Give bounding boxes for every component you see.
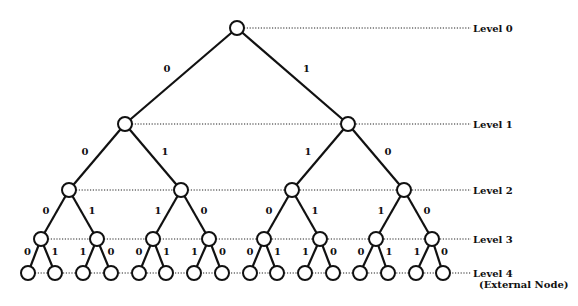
internal-node bbox=[202, 232, 216, 246]
edge-label: 0 bbox=[24, 246, 31, 257]
external-node bbox=[243, 266, 257, 280]
edge-labels: 010110011001100110011001100110 bbox=[24, 63, 448, 257]
edge-label: 0 bbox=[164, 63, 171, 74]
edge-label: 0 bbox=[424, 205, 431, 216]
internal-node bbox=[174, 183, 188, 197]
internal-node bbox=[341, 117, 355, 131]
edge-label: 1 bbox=[414, 246, 421, 257]
external-node bbox=[409, 266, 423, 280]
external-node bbox=[48, 266, 62, 280]
internal-node bbox=[369, 232, 383, 246]
edge-label: 1 bbox=[302, 246, 309, 257]
external-node bbox=[159, 266, 173, 280]
external-node bbox=[76, 266, 90, 280]
internal-node bbox=[146, 232, 160, 246]
edge-label: 0 bbox=[330, 246, 337, 257]
internal-node bbox=[34, 232, 48, 246]
edge-label: 1 bbox=[378, 205, 385, 216]
edge-label: 1 bbox=[155, 205, 162, 216]
edge-label: 1 bbox=[80, 246, 87, 257]
internal-node bbox=[230, 21, 244, 35]
edge-label: 1 bbox=[163, 246, 170, 257]
edge-label: 0 bbox=[441, 246, 448, 257]
edge-label: 1 bbox=[89, 205, 96, 216]
tree-edge bbox=[292, 124, 348, 190]
level-labels: Level 0Level 1Level 2Level 3Level 4(Exte… bbox=[473, 23, 569, 291]
internal-node bbox=[285, 183, 299, 197]
external-node bbox=[381, 266, 395, 280]
internal-node bbox=[425, 232, 439, 246]
level-2-label: Level 2 bbox=[473, 185, 513, 196]
external-node bbox=[353, 266, 367, 280]
internal-node bbox=[397, 183, 411, 197]
internal-node bbox=[90, 232, 104, 246]
external-node bbox=[104, 266, 118, 280]
edge-label: 0 bbox=[43, 205, 50, 216]
edge-label: 1 bbox=[303, 63, 310, 74]
external-node bbox=[187, 266, 201, 280]
edge-label: 0 bbox=[201, 205, 208, 216]
edge-label: 0 bbox=[108, 246, 115, 257]
edge-label: 1 bbox=[305, 146, 312, 157]
level-1-label: Level 1 bbox=[473, 119, 513, 130]
internal-node bbox=[257, 232, 271, 246]
edge-label: 1 bbox=[191, 246, 198, 257]
edge-label: 1 bbox=[162, 146, 169, 157]
external-node bbox=[270, 266, 284, 280]
external-node bbox=[298, 266, 312, 280]
tree-edge bbox=[125, 28, 237, 124]
tree-edge bbox=[348, 124, 404, 190]
external-node bbox=[21, 266, 35, 280]
edge-label: 1 bbox=[274, 246, 281, 257]
level-4-sublabel: (External Node) bbox=[479, 279, 569, 290]
level-4-label: Level 4 bbox=[473, 268, 513, 279]
external-node bbox=[215, 266, 229, 280]
edge-label: 1 bbox=[386, 246, 393, 257]
external-node bbox=[436, 266, 450, 280]
edge-label: 0 bbox=[136, 246, 143, 257]
internal-node bbox=[62, 183, 76, 197]
edge-label: 1 bbox=[52, 246, 59, 257]
edge-label: 1 bbox=[312, 205, 319, 216]
edge-label: 0 bbox=[247, 246, 254, 257]
tree-edge bbox=[125, 124, 181, 190]
level-3-label: Level 3 bbox=[473, 234, 513, 245]
edge-label: 0 bbox=[219, 246, 226, 257]
edge-label: 0 bbox=[385, 146, 392, 157]
edge-label: 0 bbox=[358, 246, 365, 257]
external-node bbox=[326, 266, 340, 280]
binary-tree-diagram: 010110011001100110011001100110Level 0Lev… bbox=[0, 0, 578, 306]
edge-label: 0 bbox=[266, 205, 273, 216]
tree-edge bbox=[237, 28, 348, 124]
external-node bbox=[132, 266, 146, 280]
internal-node bbox=[313, 232, 327, 246]
level-0-label: Level 0 bbox=[473, 23, 513, 34]
internal-node bbox=[118, 117, 132, 131]
edge-label: 0 bbox=[82, 146, 89, 157]
tree-edge bbox=[69, 124, 125, 190]
